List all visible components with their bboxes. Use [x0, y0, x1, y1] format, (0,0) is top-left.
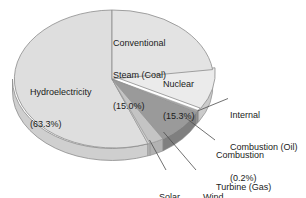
label-nuclear: Nuclear (15.3%) — [163, 58, 223, 142]
pie-chart-figure: Conventional Steam (Coal) (15.0%) Nuclea… — [0, 0, 306, 198]
label-gas-line1: Combustion — [216, 150, 296, 161]
label-hydro-value: (63.3%) — [30, 119, 120, 130]
label-nuclear-value: (15.3%) — [163, 111, 223, 122]
label-wind: Wind (1.5%) — [203, 171, 253, 198]
label-hydro-line1: Hydroelectricity — [30, 87, 120, 98]
label-coal-line1: Conventional — [113, 38, 193, 49]
label-wind-line1: Wind — [203, 192, 253, 198]
label-hydroelectricity: Hydroelectricity (63.3%) — [30, 66, 120, 150]
solar-side-wall — [148, 143, 150, 155]
label-nuclear-line1: Nuclear — [163, 79, 223, 90]
label-oil-line1: Internal — [230, 110, 306, 121]
